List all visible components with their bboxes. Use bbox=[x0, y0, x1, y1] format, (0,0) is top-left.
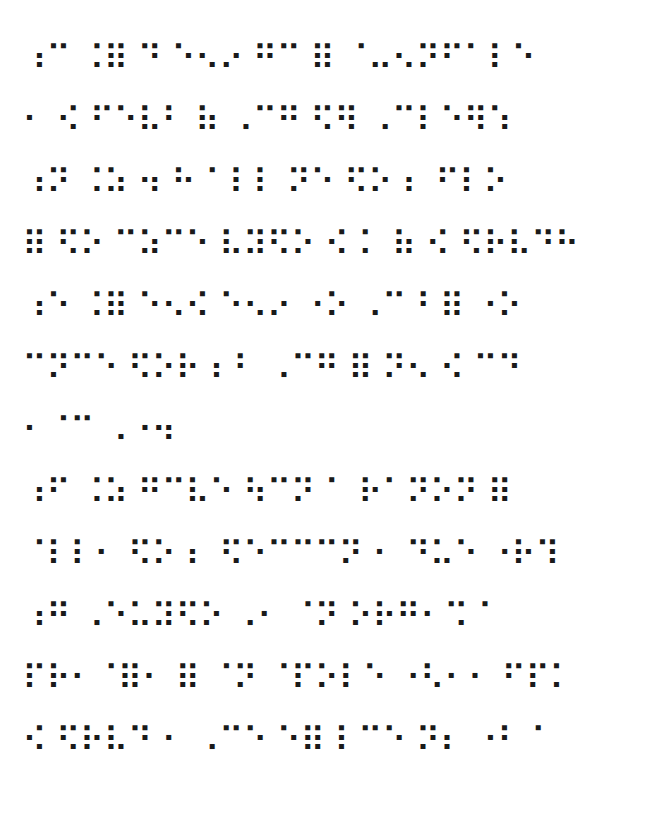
braille-page: ⠰⠉ ⠨⠿ ⠙ ⠑⠢⠔ ⠛⠉ ⠿ ⠈⠤⠢⠝⠋⠁⠇⠑ ⠂ ⠪ ⠋⠑⠧⠃ ⠷ ⠠⠉⠛… bbox=[0, 0, 671, 832]
braille-line-4: ⠿ ⠫⠕ ⠉⠵⠉⠑ ⠧⠽⠫⠕ ⠪ ⠅ ⠷ ⠪ ⠫⠗⠧⠙⠓ bbox=[22, 224, 661, 264]
braille-line-10: ⠰⠛ ⠠⠑⠥⠽⠫⠕ ⠠⠂ ⠈⠝ ⠕⠗⠛⠂⠩ ⠁ bbox=[22, 596, 661, 636]
braille-line-11: ⠏⠗⠂⠈⠿⠂ ⠿ ⠈⠝ ⠈⠏⠕⠇⠑ ⠐⠣⠂⠂ ⠋⠏⠅ bbox=[22, 658, 661, 698]
braille-line-3: ⠰⠝ ⠨⠵ ⠲ ⠓ ⠁⠇⠇ ⠝⠑ ⠫⠕ ⠆ ⠋⠇⠕ bbox=[22, 162, 661, 202]
braille-line-12: ⠪ ⠫⠗⠧⠙ ⠂ ⠠⠉⠑ ⠑⠿ ⠇⠉⠑ ⠝⠆ ⠐⠃ ⠁ bbox=[22, 720, 661, 760]
braille-line-7: ⠂⠈⠉ ⠠⠐⠲ bbox=[22, 410, 661, 450]
braille-line-6: ⠉⠝⠉⠑ ⠫⠕⠗ ⠆⠃ ⠠⠉⠛ ⠿ ⠝⠢ ⠪ ⠉⠙ bbox=[22, 348, 661, 388]
braille-line-9: ⠈⠇⠇⠂ ⠫⠕ ⠆ ⠫⠑⠉⠉⠉⠝ ⠂ ⠙⠥⠑ ⠐⠗⠹ bbox=[22, 534, 661, 574]
braille-line-2: ⠂ ⠪ ⠋⠑⠧⠃ ⠷ ⠠⠉⠛ ⠫⠻ ⠠⠉⠇⠑⠻⠱ bbox=[22, 100, 661, 140]
braille-line-1: ⠰⠉ ⠨⠿ ⠙ ⠑⠢⠔ ⠛⠉ ⠿ ⠈⠤⠢⠝⠋⠁⠇⠑ bbox=[22, 38, 661, 78]
braille-line-5: ⠰⠑ ⠨⠿ ⠑⠢⠪ ⠑⠢⠔ ⠐⠕ ⠠⠉⠘ ⠿ ⠐⠕ bbox=[22, 286, 661, 326]
braille-line-8: ⠰⠋ ⠨⠵ ⠛⠉⠧⠑ ⠳⠉⠝ ⠁ ⠗⠁⠝⠕⠝ ⠿ bbox=[22, 472, 661, 512]
